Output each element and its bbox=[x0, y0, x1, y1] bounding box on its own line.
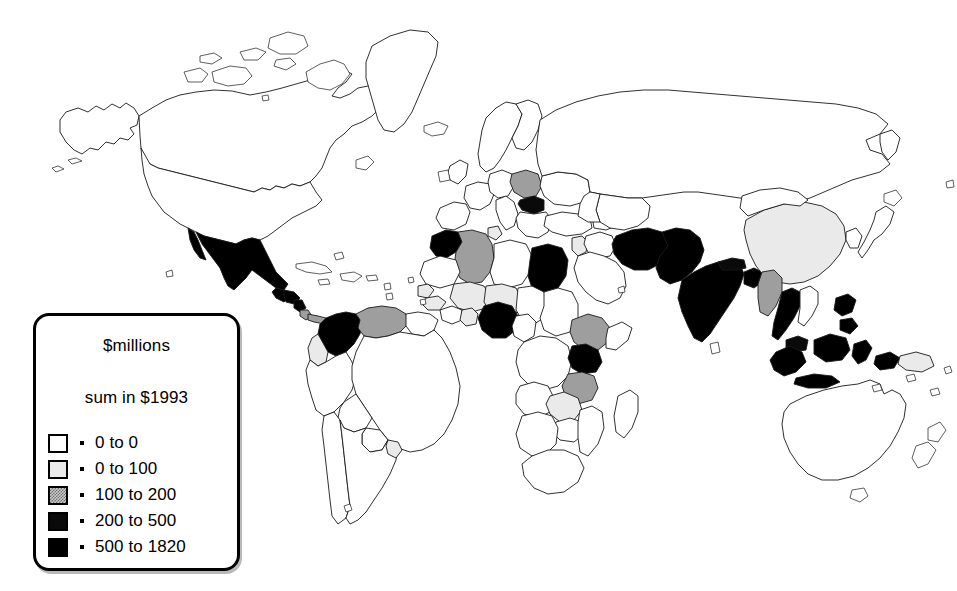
region-pacific-isle-2 bbox=[906, 374, 916, 382]
region-ellesmere bbox=[268, 32, 308, 54]
region-papua-new-guinea bbox=[898, 352, 934, 372]
region-ocean-speck-1 bbox=[166, 270, 173, 277]
region-alaska bbox=[60, 103, 139, 154]
legend-swatch-0 bbox=[48, 434, 68, 453]
world-choropleth-figure: $millions sum in $1993 0 to 0 0 to 100 1… bbox=[0, 0, 957, 591]
region-korea bbox=[846, 228, 862, 248]
region-arctic-isle-3 bbox=[274, 58, 296, 70]
region-egypt bbox=[528, 244, 568, 292]
region-lesser-antilles-2 bbox=[386, 293, 393, 300]
region-indonesia-sulawesi bbox=[852, 340, 872, 364]
region-arctic-isle-1 bbox=[240, 48, 266, 60]
region-pacific-isle-4 bbox=[944, 366, 952, 374]
region-new-zealand-south bbox=[912, 442, 936, 468]
region-mauritania bbox=[420, 256, 460, 288]
legend-separator-dot-1 bbox=[68, 467, 95, 471]
region-spain-portugal bbox=[436, 202, 470, 230]
legend-label-4: 500 to 1820 bbox=[95, 537, 186, 557]
region-vietnam-laos bbox=[798, 286, 818, 326]
legend-row[interactable]: 0 to 0 bbox=[48, 430, 237, 456]
region-somalia bbox=[606, 322, 632, 350]
region-mozambique bbox=[578, 406, 604, 456]
region-hungary bbox=[518, 196, 544, 214]
region-poland bbox=[510, 170, 542, 198]
region-ivory-coast bbox=[440, 306, 462, 324]
legend-separator-dot-0 bbox=[68, 441, 95, 445]
legend-separator-dot-2 bbox=[68, 493, 95, 497]
region-tasmania bbox=[850, 488, 868, 502]
region-japan bbox=[858, 206, 894, 258]
region-jamaica bbox=[318, 279, 330, 285]
region-ethiopia bbox=[570, 314, 610, 350]
legend-row[interactable]: 100 to 200 bbox=[48, 482, 237, 508]
region-hispaniola bbox=[340, 272, 362, 282]
region-italy bbox=[496, 196, 518, 230]
legend-row[interactable]: 0 to 100 bbox=[48, 456, 237, 482]
region-ocean-speck-3 bbox=[420, 299, 426, 305]
region-indonesia-borneo bbox=[814, 334, 850, 362]
region-newfoundland bbox=[356, 156, 374, 170]
region-germany-lowlands bbox=[488, 170, 514, 198]
region-south-africa bbox=[522, 450, 584, 494]
legend-label-3: 200 to 500 bbox=[95, 511, 176, 531]
region-philippines-1 bbox=[834, 294, 856, 316]
region-arctic-isle-2 bbox=[200, 53, 222, 64]
legend-swatch-3 bbox=[48, 512, 68, 531]
region-libya bbox=[490, 240, 532, 288]
region-cameroon bbox=[512, 314, 536, 342]
legend-subtitle: sum in $1993 bbox=[36, 388, 237, 408]
region-aleutians-2 bbox=[68, 158, 82, 164]
region-madagascar bbox=[614, 390, 638, 438]
region-algeria bbox=[454, 230, 494, 284]
legend-swatch-4 bbox=[48, 538, 68, 557]
region-japan-hokkaido bbox=[884, 190, 902, 206]
region-australia bbox=[782, 380, 906, 480]
region-banks-island bbox=[184, 68, 208, 82]
region-new-zealand-north bbox=[928, 422, 946, 442]
region-iceland bbox=[424, 122, 448, 136]
legend-row[interactable]: 200 to 500 bbox=[48, 508, 237, 534]
region-ocean-speck-7 bbox=[262, 95, 269, 101]
legend-label-0: 0 to 0 bbox=[95, 433, 138, 453]
region-puerto-rico bbox=[366, 275, 378, 281]
legend-row[interactable]: 500 to 1820 bbox=[48, 534, 237, 560]
region-bahamas bbox=[334, 252, 344, 260]
region-tunisia bbox=[488, 226, 502, 240]
region-philippines-2 bbox=[840, 318, 858, 334]
legend-label-2: 100 to 200 bbox=[95, 485, 176, 505]
region-aleutians bbox=[52, 166, 64, 172]
region-indonesia-java bbox=[794, 374, 840, 388]
region-cuba bbox=[296, 262, 332, 274]
legend-swatch-1 bbox=[48, 460, 68, 479]
region-indonesia-east bbox=[874, 352, 900, 370]
region-russia bbox=[536, 90, 890, 204]
region-pacific-isle-3 bbox=[930, 388, 940, 396]
region-namibia-botswana bbox=[516, 412, 558, 456]
legend-title: $millions bbox=[36, 336, 237, 356]
region-lesser-antilles-1 bbox=[384, 283, 391, 290]
region-ireland bbox=[438, 170, 450, 182]
map-legend: $millions sum in $1993 0 to 0 0 to 100 1… bbox=[33, 313, 240, 571]
legend-label-1: 0 to 100 bbox=[95, 459, 157, 479]
legend-separator-dot-4 bbox=[68, 545, 95, 549]
region-victoria-island bbox=[212, 66, 252, 86]
legend-separator-dot-3 bbox=[68, 519, 95, 523]
region-ocean-speck-2 bbox=[408, 277, 414, 283]
region-uk bbox=[448, 160, 468, 184]
legend-class-list: 0 to 0 0 to 100 100 to 200 200 to 500 bbox=[36, 430, 237, 560]
legend-swatch-2 bbox=[48, 486, 68, 505]
region-ghana bbox=[460, 308, 478, 326]
region-central-asia bbox=[596, 194, 650, 230]
region-ocean-speck-6 bbox=[946, 180, 954, 188]
region-sri-lanka bbox=[710, 342, 720, 354]
region-nepal bbox=[718, 258, 746, 270]
region-greenland bbox=[366, 30, 438, 132]
region-nigeria bbox=[478, 302, 518, 338]
region-senegal bbox=[418, 284, 434, 298]
